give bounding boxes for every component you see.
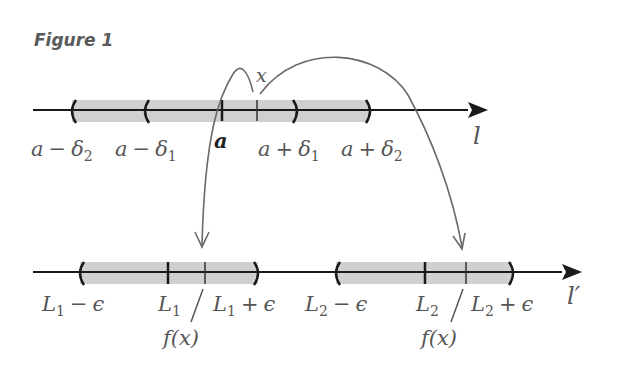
fx-pointer-1 bbox=[191, 289, 203, 322]
label-L2-plus-eps: L2+ϵ bbox=[471, 292, 533, 319]
label-L1: L1 bbox=[158, 292, 181, 319]
label-L1-plus-eps: L1+ϵ bbox=[213, 292, 275, 319]
label-x: x bbox=[256, 64, 267, 86]
label-L2-minus-eps: L2−ϵ bbox=[305, 292, 367, 319]
label-fx-2: f(x) bbox=[421, 326, 457, 350]
label-a-minus-delta2: a−δ2 bbox=[31, 137, 93, 164]
label-L2: L2 bbox=[416, 292, 439, 319]
label-a-plus-delta2: a+δ2 bbox=[341, 137, 403, 164]
label-a: a bbox=[214, 128, 228, 153]
label-a-plus-delta1: a+δ1 bbox=[258, 137, 320, 164]
map-curve-to-L1 bbox=[202, 68, 253, 245]
label-fx-1: f(x) bbox=[163, 326, 199, 350]
label-L1-minus-eps: L1−ϵ bbox=[42, 292, 104, 319]
label-a-minus-delta1: a−δ1 bbox=[115, 137, 177, 164]
fx-pointer-2 bbox=[451, 289, 463, 322]
top-axis-arrow-icon bbox=[468, 102, 488, 118]
top-axis-label: l bbox=[473, 122, 481, 150]
bottom-axis-arrow-icon bbox=[562, 264, 582, 280]
bottom-axis-label: l′ bbox=[567, 282, 580, 310]
